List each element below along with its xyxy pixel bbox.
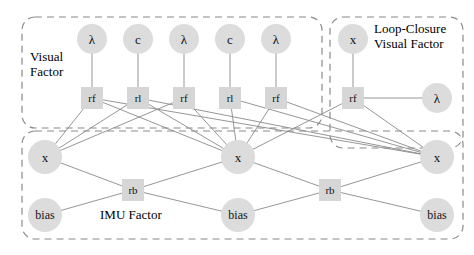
node-bias3: bias bbox=[420, 198, 454, 232]
node-rl1: rl bbox=[127, 87, 149, 109]
node-label-c1: c bbox=[135, 33, 141, 46]
node-label-lambda1: λ bbox=[89, 33, 95, 46]
node-rb2: rb bbox=[319, 179, 341, 201]
node-label-lambda2: λ bbox=[181, 33, 187, 46]
node-label-bias1: bias bbox=[35, 209, 54, 221]
node-bias1: bias bbox=[28, 198, 62, 232]
node-c1: c bbox=[123, 24, 153, 54]
node-label-x1: x bbox=[42, 151, 49, 164]
node-x2: x bbox=[221, 140, 255, 174]
group-label-visual-factor: Visual Factor bbox=[30, 50, 63, 79]
node-label-lambdalc: λ bbox=[434, 92, 440, 105]
node-label-c2: c bbox=[227, 33, 233, 46]
group-label-loop-closure-visual-factor: Loop-Closure Visual Factor bbox=[374, 22, 446, 51]
node-label-rb1: rb bbox=[128, 185, 137, 196]
node-label-rl1: rl bbox=[135, 93, 142, 104]
factor-graph-figure: Visual FactorLoop-Closure Visual FactorI… bbox=[0, 0, 474, 255]
node-lambda3: λ bbox=[261, 24, 291, 54]
node-c2: c bbox=[215, 24, 245, 54]
node-rf2: rf bbox=[173, 87, 195, 109]
node-x1: x bbox=[28, 140, 62, 174]
node-rflc: rf bbox=[342, 87, 364, 109]
node-label-rb2: rb bbox=[325, 185, 334, 196]
node-bias2: bias bbox=[221, 198, 255, 232]
node-rf1: rf bbox=[81, 87, 103, 109]
node-x3: x bbox=[420, 140, 454, 174]
group-label-imu-factor: IMU Factor bbox=[100, 208, 162, 223]
node-label-rl2: rl bbox=[227, 93, 234, 104]
node-label-bias3: bias bbox=[427, 209, 446, 221]
node-lambda2: λ bbox=[169, 24, 199, 54]
node-label-rflc: rf bbox=[349, 93, 356, 104]
node-label-rf2: rf bbox=[180, 93, 187, 104]
node-label-bias2: bias bbox=[228, 209, 247, 221]
node-rb1: rb bbox=[122, 179, 144, 201]
node-rl2: rl bbox=[219, 87, 241, 109]
node-xlc: x bbox=[338, 24, 368, 54]
node-label-rf1: rf bbox=[88, 93, 95, 104]
node-label-rf3: rf bbox=[272, 93, 279, 104]
node-label-lambda3: λ bbox=[273, 33, 279, 46]
node-label-x3: x bbox=[434, 151, 441, 164]
node-label-x2: x bbox=[235, 151, 242, 164]
node-rf3: rf bbox=[265, 87, 287, 109]
node-lambda1: λ bbox=[77, 24, 107, 54]
node-lambdalc: λ bbox=[422, 83, 452, 113]
node-label-xlc: x bbox=[350, 33, 357, 46]
